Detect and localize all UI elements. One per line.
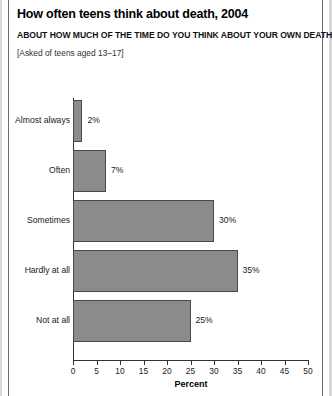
x-axis-tick-label: 45: [273, 366, 297, 376]
bar: [73, 200, 214, 242]
x-axis-tick-label: 35: [226, 366, 250, 376]
x-axis-tick: [238, 361, 239, 365]
category-label: Hardly at all: [0, 265, 70, 275]
bar: [73, 100, 82, 142]
bar-chart-plot: Percent 05101520253035404550Almost alway…: [0, 0, 332, 396]
x-axis-tick-label: 15: [132, 366, 156, 376]
x-axis-tick: [191, 361, 192, 365]
x-axis-label: Percent: [73, 379, 309, 389]
bar: [73, 250, 238, 292]
category-label: Sometimes: [0, 215, 70, 225]
x-axis-tick-label: 30: [202, 366, 226, 376]
x-axis-tick-label: 0: [61, 366, 85, 376]
x-axis-tick-label: 20: [155, 366, 179, 376]
bar-row: Often7%: [0, 150, 332, 200]
bar-value-label: 25%: [196, 315, 213, 325]
category-label: Not at all: [0, 315, 70, 325]
chart-page: How often teens think about death, 2004 …: [0, 0, 332, 396]
bar-row: Hardly at all35%: [0, 250, 332, 300]
x-axis-tick: [97, 361, 98, 365]
x-axis-tick-label: 40: [249, 366, 273, 376]
bar-row: Almost always2%: [0, 100, 332, 150]
x-axis-tick-label: 10: [108, 366, 132, 376]
bar-row: Not at all25%: [0, 300, 332, 350]
bar-value-label: 35%: [243, 265, 260, 275]
x-axis-tick: [73, 361, 74, 365]
x-axis-tick: [308, 361, 309, 365]
x-axis-tick: [285, 361, 286, 365]
x-axis-tick-label: 50: [296, 366, 320, 376]
bar-value-label: 2%: [87, 115, 99, 125]
bar-value-label: 7%: [111, 165, 123, 175]
x-axis-tick-label: 5: [85, 366, 109, 376]
category-label: Often: [0, 165, 70, 175]
x-axis-tick-label: 25: [179, 366, 203, 376]
x-axis-tick: [261, 361, 262, 365]
x-axis-tick: [167, 361, 168, 365]
x-axis-tick: [214, 361, 215, 365]
bar-row: Sometimes30%: [0, 200, 332, 250]
bar-value-label: 30%: [219, 215, 236, 225]
x-axis-tick: [144, 361, 145, 365]
bar: [73, 300, 191, 342]
x-axis-tick: [120, 361, 121, 365]
category-label: Almost always: [0, 115, 70, 125]
bar: [73, 150, 106, 192]
